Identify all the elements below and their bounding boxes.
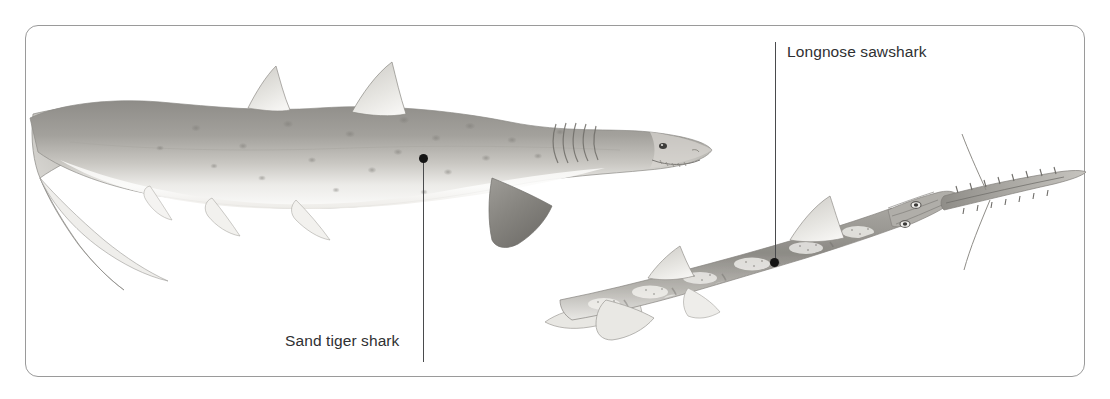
leader-line-longnose-sawshark (775, 42, 776, 264)
sawshark-first-dorsal-fin (790, 196, 844, 242)
sawshark-eye-lower-pupil (903, 222, 907, 226)
sand-tiger-eye (659, 143, 667, 149)
sand-tiger-body (30, 101, 712, 209)
leader-dot-sand-tiger-shark (419, 154, 428, 163)
sawshark-eye-upper-pupil (914, 203, 918, 207)
shark-illustrations-artwork (0, 0, 1110, 399)
label-longnose-sawshark: Longnose sawshark (787, 44, 927, 60)
leader-dot-longnose-sawshark (770, 258, 779, 267)
sawshark-pelvic-fin (684, 288, 721, 318)
label-sand-tiger-shark: Sand tiger shark (285, 333, 399, 349)
leader-line-sand-tiger-shark (423, 160, 424, 362)
sawshark-barbel-upper (962, 134, 986, 190)
figure-plate: Sand tiger shark Longnose sawshark (0, 0, 1110, 399)
sand-tiger-shark-illustration (30, 62, 712, 290)
sand-tiger-second-dorsal-fin (248, 66, 290, 111)
sand-tiger-pectoral-fin (489, 178, 552, 247)
sand-tiger-first-dorsal-fin (352, 62, 406, 116)
sawshark-second-dorsal-fin (648, 246, 694, 280)
sand-tiger-eye-highlight (661, 144, 663, 146)
sawshark-rostrum-saw (941, 171, 1086, 211)
sawshark-pectoral-fin (596, 300, 654, 340)
